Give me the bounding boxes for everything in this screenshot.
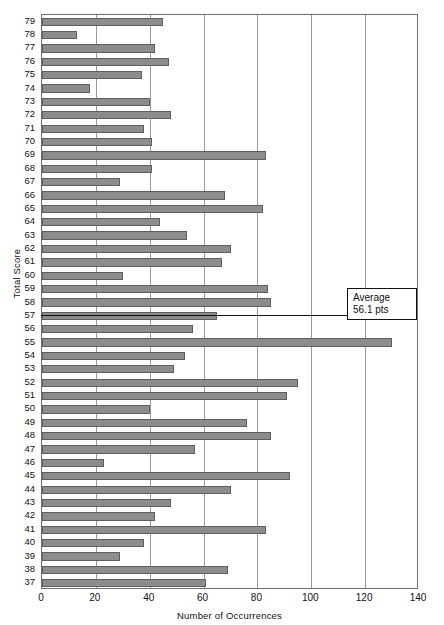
bar-score-79 — [42, 18, 163, 26]
bar-row — [42, 149, 417, 162]
bar-row — [42, 470, 417, 483]
y-tick-label-52: 52 — [24, 377, 35, 387]
bar-score-52 — [42, 379, 298, 387]
y-tick-label-70: 70 — [24, 136, 35, 146]
bar-score-58 — [42, 298, 271, 306]
y-tick-label-43: 43 — [24, 497, 35, 507]
y-tick-label-48: 48 — [24, 430, 35, 440]
x-tick-label-0: 0 — [38, 592, 44, 604]
bar-row — [42, 68, 417, 81]
annotation-value: 56.1 pts — [353, 304, 411, 316]
bar-score-41 — [42, 526, 266, 534]
bar-score-62 — [42, 245, 231, 253]
y-tick-label-58: 58 — [24, 297, 35, 307]
y-tick-label-42: 42 — [24, 510, 35, 520]
x-tick-label-40: 40 — [143, 592, 154, 604]
bar-score-61 — [42, 258, 222, 266]
y-tick-label-41: 41 — [24, 524, 35, 534]
bar-score-74 — [42, 84, 90, 92]
y-tick-label-74: 74 — [24, 83, 35, 93]
y-tick-label-47: 47 — [24, 444, 35, 454]
bar-score-54 — [42, 352, 185, 360]
y-tick-label-68: 68 — [24, 163, 35, 173]
bar-row — [42, 376, 417, 389]
bar-row — [42, 242, 417, 255]
bar-score-40 — [42, 539, 144, 547]
y-tick-label-45: 45 — [24, 470, 35, 480]
bar-score-51 — [42, 392, 287, 400]
bar-score-76 — [42, 58, 169, 66]
bar-score-48 — [42, 432, 271, 440]
bar-score-68 — [42, 165, 152, 173]
y-tick-label-54: 54 — [24, 350, 35, 360]
bar-score-59 — [42, 285, 268, 293]
bar-score-45 — [42, 472, 290, 480]
bar-row — [42, 95, 417, 108]
y-tick-label-46: 46 — [24, 457, 35, 467]
bar-score-39 — [42, 552, 120, 560]
bar-score-71 — [42, 125, 144, 133]
y-tick-label-59: 59 — [24, 283, 35, 293]
bar-score-78 — [42, 31, 77, 39]
y-axis-tick-labels: 7978777675747372717069686766656463626160… — [0, 14, 38, 589]
bar-row — [42, 550, 417, 563]
bar-score-63 — [42, 231, 187, 239]
bar-score-38 — [42, 566, 228, 574]
bar-row — [42, 175, 417, 188]
bar-row — [42, 15, 417, 28]
bar-score-67 — [42, 178, 120, 186]
y-tick-label-56: 56 — [24, 323, 35, 333]
bar-row — [42, 256, 417, 269]
y-tick-label-40: 40 — [24, 537, 35, 547]
bar-row — [42, 523, 417, 536]
bar-row — [42, 42, 417, 55]
bar-row — [42, 416, 417, 429]
y-tick-label-49: 49 — [24, 417, 35, 427]
bar-score-47 — [42, 445, 195, 453]
bar-score-53 — [42, 365, 174, 373]
bar-score-50 — [42, 405, 150, 413]
bar-row — [42, 162, 417, 175]
chart-title — [41, 0, 418, 2]
y-tick-label-79: 79 — [24, 16, 35, 26]
bar-score-37 — [42, 579, 206, 587]
bar-row — [42, 55, 417, 68]
bar-row — [42, 28, 417, 41]
bar-row — [42, 336, 417, 349]
x-tick-label-60: 60 — [197, 592, 208, 604]
bar-row — [42, 389, 417, 402]
average-annotation-callout: Average 56.1 pts — [347, 288, 417, 320]
bar-row — [42, 323, 417, 336]
x-tick-label-80: 80 — [251, 592, 262, 604]
bar-score-72 — [42, 111, 171, 119]
y-tick-label-57: 57 — [24, 310, 35, 320]
bar-score-73 — [42, 98, 150, 106]
bar-score-55 — [42, 338, 392, 346]
x-tick-label-20: 20 — [89, 592, 100, 604]
bar-row — [42, 496, 417, 509]
bar-row — [42, 135, 417, 148]
bar-score-44 — [42, 486, 231, 494]
bar-score-42 — [42, 512, 155, 520]
bar-score-43 — [42, 499, 171, 507]
annotation-leader-line — [41, 315, 347, 316]
y-tick-label-75: 75 — [24, 69, 35, 79]
bar-row — [42, 216, 417, 229]
bar-row — [42, 510, 417, 523]
bar-row — [42, 109, 417, 122]
bar-score-46 — [42, 459, 104, 467]
bar-score-75 — [42, 71, 142, 79]
bar-score-60 — [42, 272, 123, 280]
y-tick-label-38: 38 — [24, 564, 35, 574]
x-tick-label-140: 140 — [410, 592, 427, 604]
bar-score-49 — [42, 419, 247, 427]
bar-row — [42, 82, 417, 95]
y-tick-label-55: 55 — [24, 337, 35, 347]
y-tick-label-76: 76 — [24, 56, 35, 66]
y-tick-label-69: 69 — [24, 149, 35, 159]
y-tick-label-50: 50 — [24, 403, 35, 413]
y-tick-label-62: 62 — [24, 243, 35, 253]
bar-row — [42, 189, 417, 202]
bar-row — [42, 403, 417, 416]
bar-row — [42, 430, 417, 443]
